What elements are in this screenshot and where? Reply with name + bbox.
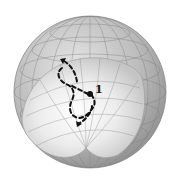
sphere-diagram — [0, 0, 182, 179]
point-marker — [87, 91, 93, 97]
point-label: 1 — [95, 83, 103, 96]
